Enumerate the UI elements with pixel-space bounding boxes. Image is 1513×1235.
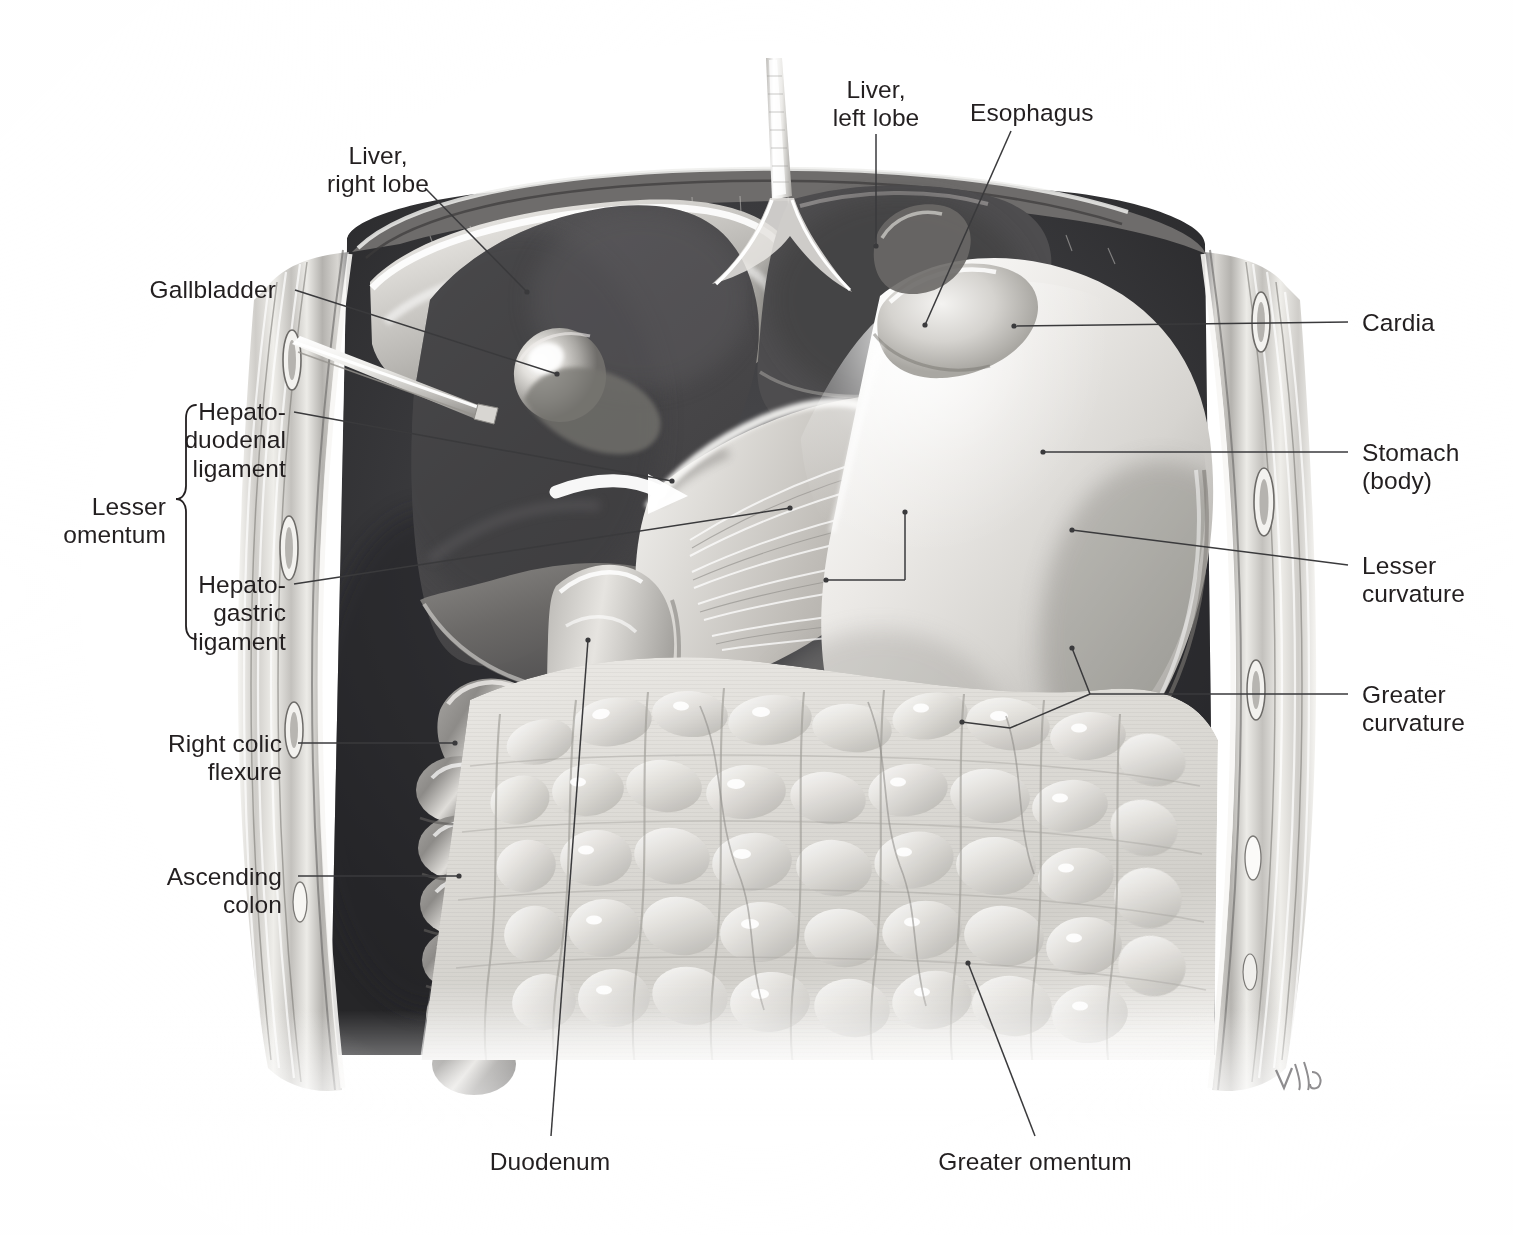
label-stomach-body: Stomach (body)	[1362, 439, 1459, 496]
label-cardia: Cardia	[1362, 309, 1435, 337]
label-liver-left-lobe: Liver, left lobe	[816, 76, 936, 133]
label-hepatogastric-ligament: Hepato- gastric ligament	[30, 571, 286, 656]
label-lesser-omentum: Lesser omentum	[0, 493, 166, 550]
illustration-stage: Liver, right lobe Liver, left lobe Esoph…	[0, 0, 1513, 1235]
label-right-colic-flexure: Right colic flexure	[20, 730, 282, 787]
label-gallbladder: Gallbladder	[20, 276, 276, 304]
label-hepatoduodenal-ligament: Hepato- duodenal ligament	[30, 398, 286, 483]
label-greater-omentum: Greater omentum	[870, 1148, 1200, 1176]
label-ascending-colon: Ascending colon	[20, 863, 282, 920]
label-duodenum: Duodenum	[430, 1148, 670, 1176]
label-liver-right-lobe: Liver, right lobe	[318, 142, 438, 199]
label-greater-curvature: Greater curvature	[1362, 681, 1465, 738]
label-lesser-curvature: Lesser curvature	[1362, 552, 1465, 609]
label-esophagus: Esophagus	[970, 99, 1094, 127]
